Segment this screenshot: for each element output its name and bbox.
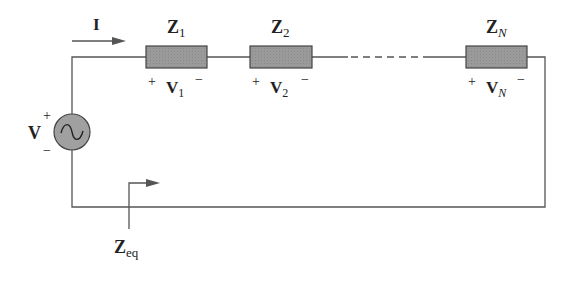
svg-text:−: − (301, 72, 309, 87)
circuit-diagram: I Z1 Z2 ZN + V1 − + V2 − + VN − V + − Ze… (0, 0, 568, 285)
source-label: V (28, 123, 41, 143)
vn-polarity: + VN − (468, 72, 525, 100)
svg-text:V2: V2 (270, 78, 288, 100)
v1-polarity: + V1 − (148, 72, 203, 100)
svg-text:VN: VN (486, 78, 507, 100)
z2-label: Z2 (271, 17, 290, 40)
impedance-zn (466, 46, 527, 68)
source-minus: − (43, 143, 51, 158)
impedance-z2 (250, 46, 312, 68)
svg-text:−: − (195, 72, 203, 87)
zn-label: ZN (486, 17, 508, 40)
source-plus: + (43, 108, 51, 123)
impedance-z1 (146, 46, 207, 68)
svg-text:−: − (517, 72, 525, 87)
zeq-label: Zeq (114, 237, 139, 260)
svg-text:+: + (148, 74, 156, 89)
current-arrow-icon (72, 37, 126, 45)
ac-source-icon (54, 114, 90, 150)
svg-text:V1: V1 (166, 78, 184, 100)
svg-text:+: + (468, 74, 476, 89)
svg-text:+: + (252, 74, 260, 89)
zeq-arrow-icon (129, 179, 160, 229)
z1-label: Z1 (167, 17, 186, 40)
current-label: I (93, 15, 100, 34)
v2-polarity: + V2 − (252, 72, 309, 100)
